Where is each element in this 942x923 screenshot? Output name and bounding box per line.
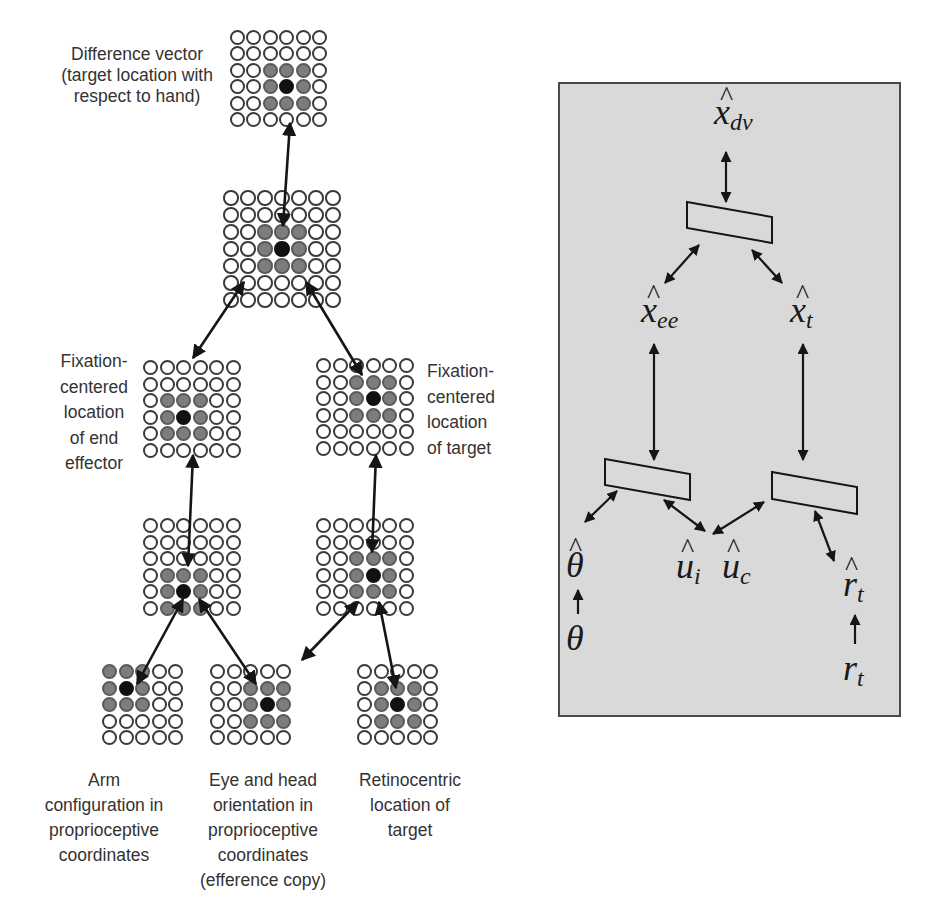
symbol-x-t: ^xt <box>790 292 813 332</box>
unit-circle <box>349 408 364 423</box>
unit-circle <box>143 443 158 458</box>
unit-circle <box>308 292 324 308</box>
unit-circle <box>312 96 327 111</box>
unit-circle <box>226 393 241 408</box>
grid-fixation-end-effector <box>143 360 243 460</box>
unit-circle <box>276 681 291 696</box>
unit-circle <box>152 730 167 745</box>
unit-circle <box>223 241 239 257</box>
unit-circle <box>333 358 348 373</box>
unit-circle <box>407 697 422 712</box>
unit-circle <box>291 258 307 274</box>
unit-circle <box>296 30 311 45</box>
unit-circle <box>160 377 175 392</box>
unit-circle <box>230 96 245 111</box>
grid-fixation-target <box>316 358 416 458</box>
unit-circle <box>260 681 275 696</box>
unit-circle <box>357 697 372 712</box>
unit-circle <box>274 207 290 223</box>
unit-circle <box>209 601 224 616</box>
unit-circle <box>176 551 191 566</box>
unit-circle <box>399 424 414 439</box>
unit-circle <box>423 730 438 745</box>
unit-circle <box>382 375 397 390</box>
unit-circle <box>226 410 241 425</box>
unit-circle <box>291 224 307 240</box>
unit-circle <box>399 391 414 406</box>
unit-circle <box>176 584 191 599</box>
unit-circle <box>382 358 397 373</box>
unit-circle <box>209 426 224 441</box>
unit-circle <box>308 190 324 206</box>
unit-circle <box>349 441 364 456</box>
unit-circle <box>176 518 191 533</box>
unit-circle <box>143 535 158 550</box>
unit-circle <box>193 377 208 392</box>
unit-circle <box>263 30 278 45</box>
unit-circle <box>193 584 208 599</box>
unit-circle <box>143 410 158 425</box>
unit-circle <box>316 551 331 566</box>
label-fixation-target: Fixation- centered location of target <box>427 359 495 461</box>
unit-circle <box>374 664 389 679</box>
unit-circle <box>333 375 348 390</box>
unit-circle <box>176 377 191 392</box>
unit-circle <box>160 393 175 408</box>
unit-circle <box>160 551 175 566</box>
unit-circle <box>296 63 311 78</box>
unit-circle <box>308 275 324 291</box>
unit-circle <box>312 112 327 127</box>
unit-circle <box>257 275 273 291</box>
unit-circle <box>160 584 175 599</box>
label-fixation-end-effector: Fixation- centered location of end effec… <box>48 349 140 477</box>
unit-circle <box>366 518 381 533</box>
unit-circle <box>399 568 414 583</box>
unit-circle <box>390 664 405 679</box>
unit-circle <box>243 730 258 745</box>
unit-circle <box>226 568 241 583</box>
unit-circle <box>135 664 150 679</box>
unit-circle <box>209 360 224 375</box>
unit-circle <box>168 714 183 729</box>
unit-circle <box>193 518 208 533</box>
unit-circle <box>296 46 311 61</box>
unit-circle <box>260 664 275 679</box>
unit-circle <box>325 224 341 240</box>
unit-circle <box>312 63 327 78</box>
unit-circle <box>349 601 364 616</box>
unit-circle <box>193 568 208 583</box>
unit-circle <box>210 730 225 745</box>
unit-circle <box>223 292 239 308</box>
unit-circle <box>223 190 239 206</box>
unit-circle <box>382 551 397 566</box>
unit-circle <box>226 426 241 441</box>
unit-circle <box>423 681 438 696</box>
unit-circle <box>399 601 414 616</box>
unit-circle <box>316 424 331 439</box>
unit-circle <box>390 697 405 712</box>
unit-circle <box>143 601 158 616</box>
symbol-x-dv: ^xdv <box>714 94 753 134</box>
unit-circle <box>176 568 191 583</box>
unit-circle <box>399 408 414 423</box>
label-eye-head-orientation: Eye and head orientation in propriocepti… <box>188 768 338 893</box>
unit-circle <box>209 410 224 425</box>
unit-circle <box>160 601 175 616</box>
unit-circle <box>316 568 331 583</box>
unit-circle <box>407 664 422 679</box>
unit-circle <box>119 664 134 679</box>
unit-circle <box>312 46 327 61</box>
unit-circle <box>279 112 294 127</box>
unit-circle <box>349 551 364 566</box>
unit-circle <box>291 292 307 308</box>
unit-circle <box>390 681 405 696</box>
unit-circle <box>260 730 275 745</box>
unit-circle <box>366 408 381 423</box>
unit-circle <box>325 190 341 206</box>
unit-circle <box>226 443 241 458</box>
unit-circle <box>316 584 331 599</box>
unit-circle <box>399 535 414 550</box>
unit-circle <box>357 664 372 679</box>
unit-circle <box>274 224 290 240</box>
unit-circle <box>333 518 348 533</box>
